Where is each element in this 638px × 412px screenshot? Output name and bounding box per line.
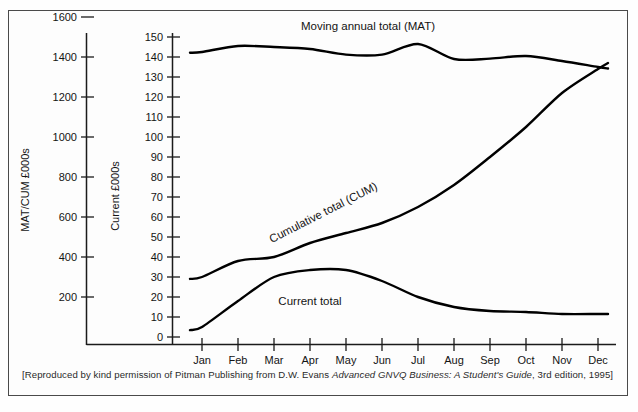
secondary-tick-label: 1000	[53, 131, 77, 143]
primary-axis-ticks: 0102030405060708090100110120130140150	[145, 31, 180, 343]
series-line-cum	[190, 63, 608, 279]
primary-tick-label: 100	[145, 131, 163, 143]
caption-prefix: [Reproduced by kind permission of Pitman…	[22, 369, 332, 380]
secondary-axis-ticks: 2004006008001000120014001600	[53, 11, 94, 303]
secondary-tick-label: 200	[59, 291, 77, 303]
primary-tick-label: 50	[151, 231, 163, 243]
primary-tick-label: 20	[151, 291, 163, 303]
secondary-tick-label: 1200	[53, 91, 77, 103]
x-axis-ticks: JanFebMarAprMayJunJulAugSepOctNovDec	[193, 338, 608, 366]
x-tick-label: Jul	[411, 354, 425, 366]
secondary-tick-label: 800	[59, 171, 77, 183]
x-tick-label: Jun	[373, 354, 391, 366]
primary-tick-label: 120	[145, 91, 163, 103]
chart-canvas: 2004006008001000120014001600 MAT/CUM £00…	[0, 0, 638, 412]
primary-tick-label: 40	[151, 251, 163, 263]
x-tick-label: Aug	[444, 354, 464, 366]
caption-book-title: Advanced GNVQ Business: A Student's Guid…	[332, 369, 532, 380]
primary-tick-label: 80	[151, 171, 163, 183]
annotation-current-total: Current total	[278, 295, 341, 307]
figure-caption: [Reproduced by kind permission of Pitman…	[22, 369, 617, 380]
x-tick-label: Nov	[552, 354, 572, 366]
primary-tick-label: 140	[145, 51, 163, 63]
primary-tick-label: 90	[151, 151, 163, 163]
primary-tick-label: 60	[151, 211, 163, 223]
primary-tick-label: 70	[151, 191, 163, 203]
x-tick-label: May	[336, 354, 357, 366]
annotation-cum: Cumulative total (CUM)	[267, 180, 379, 245]
x-tick-label: Oct	[517, 354, 534, 366]
primary-tick-label: 30	[151, 271, 163, 283]
primary-axis-title: Current £000s	[109, 161, 121, 231]
series-line-mat	[190, 44, 608, 69]
line-chart-svg: 2004006008001000120014001600 MAT/CUM £00…	[0, 0, 638, 412]
secondary-tick-label: 400	[59, 251, 77, 263]
x-tick-label: Jan	[193, 354, 211, 366]
primary-tick-label: 10	[151, 311, 163, 323]
secondary-tick-label: 1400	[53, 51, 77, 63]
x-tick-label: Feb	[229, 354, 248, 366]
series-group	[190, 44, 608, 330]
primary-tick-label: 0	[157, 331, 163, 343]
primary-tick-label: 130	[145, 71, 163, 83]
x-axis: JanFebMarAprMayJunJulAugSepOctNovDec	[87, 338, 617, 366]
x-tick-label: Apr	[301, 354, 318, 366]
primary-tick-label: 150	[145, 31, 163, 43]
figure-page: 2004006008001000120014001600 MAT/CUM £00…	[0, 0, 638, 412]
caption-suffix: , 3rd edition, 1995]	[532, 369, 613, 380]
x-tick-label: Dec	[588, 354, 608, 366]
primary-y-axis: 0102030405060708090100110120130140150	[145, 31, 180, 345]
secondary-tick-label: 600	[59, 211, 77, 223]
secondary-tick-label: 1600	[53, 11, 77, 23]
secondary-y-axis: 2004006008001000120014001600	[53, 11, 94, 345]
annotation-mat: Moving annual total (MAT)	[301, 20, 435, 32]
x-tick-label: Sep	[480, 354, 500, 366]
series-line-current-total	[190, 269, 608, 330]
x-tick-label: Mar	[265, 354, 284, 366]
secondary-axis-title: MAT/CUM £000s	[19, 148, 31, 232]
primary-tick-label: 110	[145, 111, 163, 123]
